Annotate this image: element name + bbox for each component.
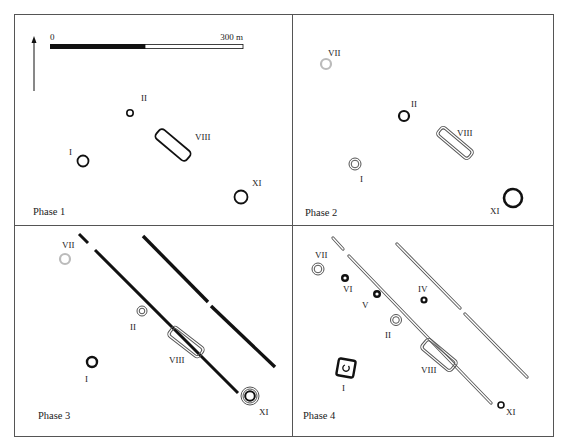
feature-ii: II — [399, 99, 417, 121]
scale-bar-filled-segment — [50, 44, 145, 49]
north-arrow-icon — [32, 36, 37, 91]
phase-label: Phase 4 — [303, 410, 336, 421]
feature-label: VII — [62, 240, 75, 250]
feature-label: II — [385, 330, 391, 340]
ditch-inner — [79, 234, 238, 393]
feature-vii: VII — [321, 48, 341, 69]
panel-phase-4: VIIVIVIVIIVIIIIXI Phase 4 — [303, 238, 527, 421]
scale-end-label: 300 m — [220, 32, 243, 42]
ditch-outer — [143, 236, 275, 367]
feature-viii: VIII — [419, 337, 459, 375]
panel-phase-2: VIIIIVIIIIXI Phase 2 — [305, 48, 522, 218]
feature-label: I — [69, 147, 72, 157]
feature-ii: II — [127, 93, 147, 116]
ditch-outer — [397, 244, 527, 377]
feature-i: I — [349, 158, 363, 184]
feature-xi: XI — [490, 189, 522, 216]
feature-v: V — [362, 291, 380, 310]
feature-iv: IV — [418, 284, 428, 303]
panel-phase-3: VIIIIVIIIIXI Phase 3 — [38, 234, 275, 421]
feature-label: VIII — [457, 128, 473, 138]
site-plan-canvas: 0 300 m IIVIIIIXI Phase 1 VIIIIVIIIIXI P… — [0, 0, 562, 443]
feature-label: I — [342, 383, 345, 393]
phase-label: Phase 2 — [305, 207, 337, 218]
feature-label: VIII — [421, 365, 437, 375]
feature-i: I — [85, 357, 97, 384]
feature-i: I — [69, 147, 89, 167]
feature-label: XI — [506, 407, 516, 417]
feature-label: II — [141, 93, 147, 103]
feature-label: IV — [418, 284, 428, 294]
feature-label: I — [360, 174, 363, 184]
feature-viii: VIII — [166, 325, 206, 365]
feature-xi: XI — [498, 402, 516, 417]
feature-label: XI — [259, 407, 269, 417]
feature-label: XI — [252, 178, 262, 188]
feature-vii: VII — [60, 240, 75, 264]
feature-vi: VI — [342, 275, 352, 294]
feature-ii: II — [130, 306, 147, 332]
scale-start-label: 0 — [50, 32, 55, 42]
feature-xi: XI — [241, 387, 269, 417]
ditch-inner — [333, 238, 491, 403]
phased-site-plan-figure: 0 300 m IIVIIIIXI Phase 1 VIIIIVIIIIXI P… — [0, 0, 562, 443]
feature-i: I — [336, 358, 356, 393]
feature-viii: VIII — [435, 125, 475, 161]
scale-bar-open-segment — [145, 44, 243, 48]
phase-label: Phase 1 — [33, 206, 65, 217]
feature-label: VII — [315, 250, 328, 260]
feature-label: XI — [490, 206, 500, 216]
feature-label: VII — [328, 48, 341, 58]
feature-label: II — [130, 322, 136, 332]
feature-viii: VIII — [154, 128, 211, 163]
feature-vii: VII — [312, 250, 328, 275]
feature-ii: II — [385, 315, 402, 341]
feature-label: V — [362, 300, 369, 310]
feature-label: VIII — [169, 355, 185, 365]
feature-label: I — [85, 374, 88, 384]
feature-label: VIII — [195, 132, 211, 142]
feature-label: II — [411, 99, 417, 109]
scale-bar: 0 300 m — [50, 32, 243, 49]
phase-label: Phase 3 — [38, 410, 70, 421]
feature-label: VI — [343, 284, 353, 294]
feature-xi: XI — [235, 178, 262, 204]
panel-phase-1: IIVIIIIXI Phase 1 — [33, 93, 262, 217]
